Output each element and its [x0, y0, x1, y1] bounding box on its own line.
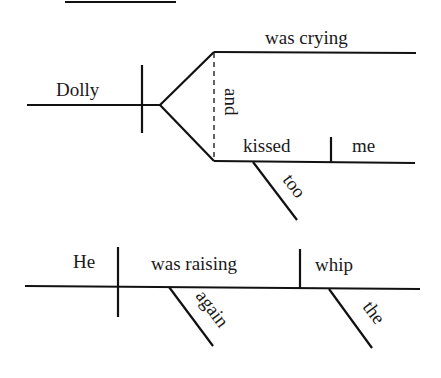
modifier-line-the: [329, 289, 372, 348]
fork-lower: [160, 105, 214, 161]
word-was-raising: was raising: [151, 253, 238, 274]
sentence-2-diagram: He was raising whip again the: [25, 247, 420, 348]
sentence-2-baseline: [25, 286, 420, 289]
word-was-crying: was crying: [265, 27, 348, 48]
word-dolly: Dolly: [56, 79, 100, 100]
sentence-diagram: Dolly was crying and kissed me too He wa…: [0, 0, 441, 378]
predicate-2-baseline: [214, 161, 415, 163]
fork-upper: [160, 52, 214, 105]
word-too: too: [279, 170, 310, 202]
word-whip: whip: [315, 254, 353, 275]
sentence-1-diagram: Dolly was crying and kissed me too: [27, 27, 416, 220]
word-me: me: [352, 135, 375, 156]
predicate-1-baseline: [214, 52, 416, 53]
word-kissed: kissed: [243, 135, 291, 156]
word-he: He: [73, 251, 95, 272]
word-the: the: [359, 297, 390, 328]
word-and: and: [221, 88, 242, 116]
